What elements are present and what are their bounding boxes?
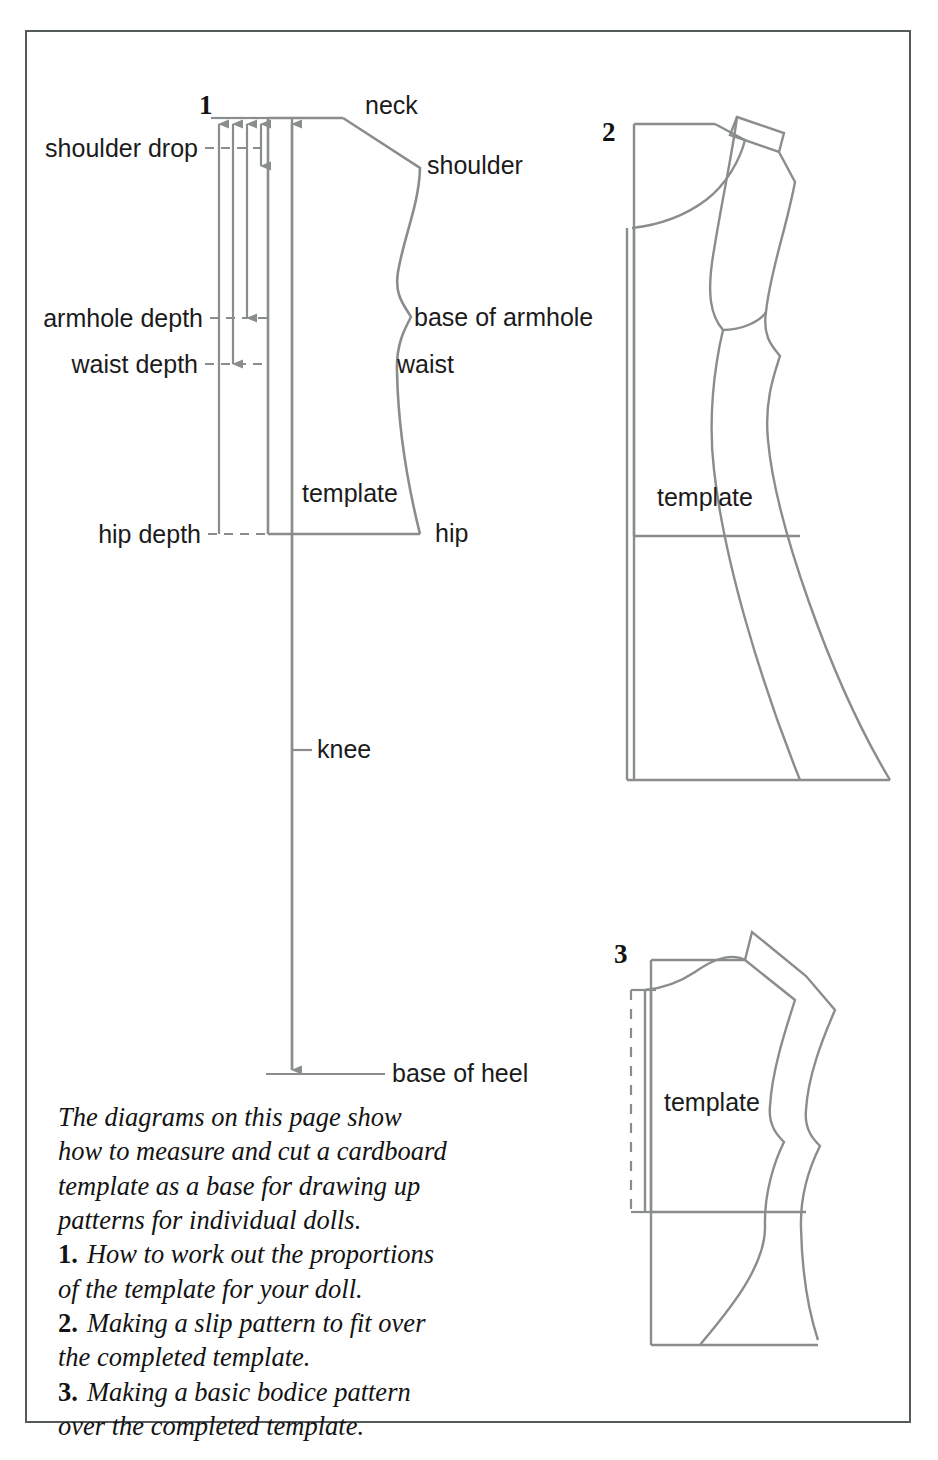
d2-shoulder-strap bbox=[730, 117, 784, 152]
label-base-of-heel: base of heel bbox=[392, 1061, 528, 1086]
d3-bodice-outer-outline bbox=[745, 932, 835, 1340]
figure-2-number: 2 bbox=[602, 119, 616, 146]
caption-item-1-text: How to work out the proportions bbox=[87, 1239, 434, 1269]
label-armhole-depth: armhole depth bbox=[30, 306, 203, 331]
page-canvas: 1 shoulder drop armhole depth waist dept… bbox=[0, 0, 938, 1460]
caption-item-2-line-1: 2.Making a slip pattern to fit over bbox=[58, 1306, 578, 1340]
label-waist-depth: waist depth bbox=[30, 352, 198, 377]
diagram-3-group bbox=[631, 932, 835, 1345]
label-base-of-armhole: base of armhole bbox=[414, 305, 593, 330]
caption-item-2-number: 2. bbox=[58, 1308, 78, 1338]
measurement-arrows bbox=[219, 124, 261, 534]
caption-block: The diagrams on this page show how to me… bbox=[58, 1100, 578, 1443]
label-neck: neck bbox=[365, 93, 418, 118]
caption-item-1-line-2: of the template for your doll. bbox=[58, 1272, 578, 1306]
caption-item-3-number: 3. bbox=[58, 1377, 78, 1407]
d2-slip-outer-seam bbox=[765, 152, 890, 780]
reference-dashed-lines bbox=[205, 148, 268, 534]
caption-item-1-number: 1. bbox=[58, 1239, 78, 1269]
caption-intro-line-1: The diagrams on this page show bbox=[58, 1100, 578, 1134]
caption-item-2-text: Making a slip pattern to fit over bbox=[87, 1308, 426, 1338]
caption-item-3-line-1: 3.Making a basic bodice pattern bbox=[58, 1375, 578, 1409]
label-template-3: template bbox=[664, 1090, 760, 1115]
caption-item-3-text: Making a basic bodice pattern bbox=[87, 1377, 411, 1407]
d3-template-shoulder-curve bbox=[645, 957, 745, 990]
caption-intro-line-2: how to measure and cut a cardboard bbox=[58, 1134, 578, 1168]
label-hip-depth: hip depth bbox=[30, 522, 201, 547]
caption-item-1-line-1: 1.How to work out the proportions bbox=[58, 1237, 578, 1271]
label-template-1: template bbox=[302, 481, 398, 506]
label-shoulder: shoulder bbox=[427, 153, 523, 178]
label-waist: waist bbox=[397, 352, 454, 377]
figure-3-number: 3 bbox=[614, 941, 628, 968]
diagram-2-group bbox=[627, 117, 890, 780]
diagram-1-group bbox=[205, 118, 420, 1074]
label-shoulder-drop: shoulder drop bbox=[30, 136, 198, 161]
label-knee: knee bbox=[317, 737, 371, 762]
caption-item-2-line-2: the completed template. bbox=[58, 1340, 578, 1374]
label-hip: hip bbox=[435, 521, 468, 546]
figure-1-number: 1 bbox=[199, 92, 213, 119]
label-template-2: template bbox=[657, 485, 753, 510]
caption-intro-line-3: template as a base for drawing up bbox=[58, 1169, 578, 1203]
d2-slip-inner-side-seam bbox=[712, 330, 800, 780]
caption-intro-line-4: patterns for individual dolls. bbox=[58, 1203, 578, 1237]
body-outline-curve bbox=[343, 118, 420, 534]
d3-bodice-inner-outline bbox=[700, 960, 795, 1345]
caption-item-3-line-2: over the completed template. bbox=[58, 1409, 578, 1443]
d2-slip-armhole-curve bbox=[710, 117, 766, 330]
